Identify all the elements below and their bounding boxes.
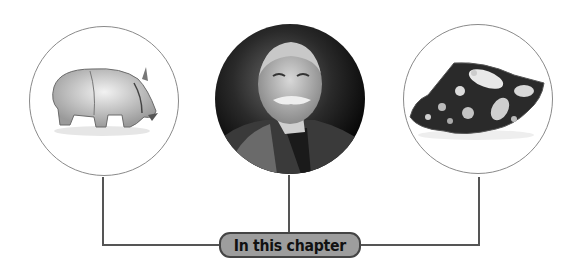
portrait-icon xyxy=(215,24,365,174)
connector-middle-vertical xyxy=(288,175,290,233)
connector-right-vertical xyxy=(478,177,480,245)
badge-label: In this chapter xyxy=(234,236,346,255)
connector-right-horizontal xyxy=(360,244,480,246)
connector-left-horizontal xyxy=(102,244,220,246)
rock-image xyxy=(403,24,553,174)
portrait-image xyxy=(215,24,365,174)
rhino-icon xyxy=(30,27,179,176)
rock-icon xyxy=(404,25,553,174)
connector-left-vertical xyxy=(102,177,104,245)
rhino-image xyxy=(29,26,179,176)
in-this-chapter-badge: In this chapter xyxy=(219,232,361,258)
